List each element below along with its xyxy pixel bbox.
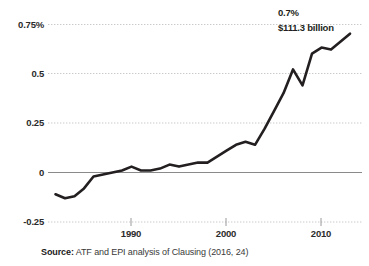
annotation-percent: 0.7% [278,7,299,18]
x-tick-label-1990: 1990 [111,228,151,239]
line-chart-svg [0,0,369,240]
x-tick-label-2000: 2000 [206,228,246,239]
x-tick-label-2010: 2010 [301,228,341,239]
source-text: ATF and EPI analysis of Clausing (2016, … [74,247,249,257]
plot-area: 0.75% 0.5 0.25 0 -0.25 1990 2000 2010 0.… [0,0,369,240]
data-line-profits-shifted [56,34,351,199]
source-label: Source: [41,247,74,257]
annotation-value: $111.3 billion [278,22,334,33]
y-tick-label-05: 0.5 [0,68,44,79]
source-note: Source: ATF and EPI analysis of Clausing… [41,247,248,257]
y-tick-label-0: 0 [0,167,44,178]
y-tick-label-neg025: -0.25 [0,216,44,227]
y-tick-label-075: 0.75% [0,19,44,30]
chart-figure: 0.75% 0.5 0.25 0 -0.25 1990 2000 2010 0.… [0,0,369,266]
y-tick-label-025: 0.25 [0,117,44,128]
gridlines [48,25,362,223]
